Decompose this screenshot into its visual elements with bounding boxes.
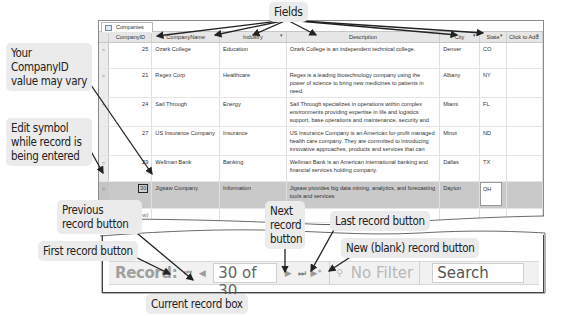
cell-industry[interactable]: Healthcare: [220, 68, 287, 97]
cell-companyid[interactable]: 21: [109, 68, 152, 97]
callout-edit-symbol: Edit symbol while record is being entere…: [6, 118, 92, 166]
callout-next-record: Next record button: [265, 201, 305, 249]
table-row[interactable]: ⌗ 24 Sail Through Energy Sail Through sp…: [99, 97, 543, 126]
callout-previous-record: Previous record button: [57, 200, 142, 234]
record-label: Record:: [115, 264, 177, 282]
datasheet-grid: CompanyID CompanyName Industry▾ Descript…: [99, 32, 543, 223]
cell-description[interactable]: US Insurance Company is an American for-…: [286, 126, 440, 155]
cell-city[interactable]: Dallas: [440, 155, 480, 181]
column-header-industry[interactable]: Industry▾: [220, 32, 287, 42]
cell-click-to-add[interactable]: [506, 208, 542, 222]
chevron-down-icon[interactable]: ▾: [473, 32, 476, 38]
cell-state[interactable]: NY: [479, 68, 506, 97]
divider: [419, 262, 420, 284]
object-tabstrip: Companies: [99, 21, 543, 32]
column-header-companyname[interactable]: CompanyName: [152, 32, 220, 42]
column-header-click-to-add[interactable]: Click to Add▾: [506, 32, 542, 42]
search-input[interactable]: Search: [432, 263, 524, 283]
cell-industry[interactable]: Energy: [220, 97, 287, 126]
cell-description[interactable]: Wellman Bank is an American internationa…: [286, 155, 440, 181]
cell-description[interactable]: Sail Through specializes in operations w…: [286, 97, 440, 126]
chevron-down-icon[interactable]: ▾: [536, 32, 539, 38]
cell-state[interactable]: OH: [479, 181, 506, 208]
cell-click-to-add[interactable]: [506, 97, 542, 126]
state-input[interactable]: OH: [480, 182, 502, 206]
cell-city[interactable]: Albany: [440, 68, 480, 97]
callout-last-record: Last record button: [330, 211, 430, 231]
table-row[interactable]: ⌗ 29 Wellman Bank Banking Wellman Bank i…: [99, 155, 543, 181]
callout-new-record: New (blank) record button: [341, 238, 479, 258]
table-icon: [105, 25, 112, 31]
cell-state[interactable]: ND: [479, 126, 506, 155]
previous-record-button[interactable]: ◀: [195, 268, 209, 278]
cell-industry[interactable]: Insurance: [220, 126, 287, 155]
cell-click-to-add[interactable]: [506, 68, 542, 97]
table-row[interactable]: 27 US Insurance Company Insurance US Ins…: [99, 126, 543, 155]
record-selector[interactable]: ⌗: [99, 155, 109, 181]
cell-companyname[interactable]: Ozark College: [152, 42, 220, 68]
new-record-button[interactable]: ▶*: [309, 268, 323, 278]
cell-city[interactable]: Minot: [440, 126, 480, 155]
cell-companyid[interactable]: 29: [109, 155, 152, 181]
cell-companyname[interactable]: Wellman Bank: [152, 155, 220, 181]
cell-state[interactable]: CO: [479, 42, 506, 68]
cell-companyid[interactable]: 25: [109, 42, 152, 68]
cell-click-to-add[interactable]: [506, 42, 542, 68]
cell-state[interactable]: TX: [479, 155, 506, 181]
no-filter-label: No Filter: [351, 264, 413, 282]
tab-label: Companies: [116, 24, 144, 30]
datasheet-window: Companies CompanyID CompanyName Industry…: [98, 20, 544, 225]
cell-city[interactable]: Dayton: [440, 181, 480, 208]
table-row[interactable]: ⌗ 25 Ozark College Education Ozark Colle…: [99, 42, 543, 68]
cell-companyname[interactable]: US Insurance Company: [152, 126, 220, 155]
cell-companyid[interactable]: 24: [109, 97, 152, 126]
record-navigation-bar: Record: ⏮ ◀ 30 of 30 ▶ ⏭ ▶* ⚲ No Filter …: [109, 261, 539, 285]
editing-row[interactable]: ✎ ⌗ 30 Jigsaw Company Information Jigsaw…: [99, 181, 543, 208]
record-selector[interactable]: ⌗: [99, 97, 109, 126]
column-header-description[interactable]: Description: [286, 32, 440, 42]
column-header-city[interactable]: City▾: [440, 32, 480, 42]
cell-industry[interactable]: Education: [220, 42, 287, 68]
select-all-corner[interactable]: [99, 32, 109, 42]
cell-click-to-add[interactable]: [506, 126, 542, 155]
divider: [329, 262, 330, 284]
cell-city[interactable]: [440, 208, 480, 222]
table-row[interactable]: ⌗ 21 Regex Corp Healthcare Regex is a le…: [99, 68, 543, 97]
cell-companyname[interactable]: Regex Corp: [152, 68, 220, 97]
chevron-down-icon[interactable]: ▾: [500, 32, 503, 38]
cell-state[interactable]: [479, 208, 506, 222]
companyid-value: 30: [138, 184, 148, 193]
cell-companyname[interactable]: Jigsaw Company: [152, 181, 220, 208]
last-record-button[interactable]: ⏭: [295, 268, 309, 279]
no-filter-button[interactable]: ⚲ No Filter: [336, 264, 413, 282]
cell-companyid[interactable]: 27: [109, 126, 152, 155]
column-header-companyid[interactable]: CompanyID: [109, 32, 152, 42]
first-record-button[interactable]: ⏮: [181, 268, 195, 279]
filter-icon: ⚲: [336, 268, 343, 278]
callout-fields: Fields: [269, 2, 308, 22]
selector-mark: ⌗: [102, 186, 105, 192]
cell-city[interactable]: Denver: [440, 42, 480, 68]
cell-companyname[interactable]: [152, 208, 220, 222]
cell-description[interactable]: Ozark College is an independent technica…: [286, 42, 440, 68]
cell-description[interactable]: Jigsaw provides big data mining, analyti…: [286, 181, 440, 208]
callout-company-id: Your CompanyID value may vary: [6, 43, 92, 91]
record-selector[interactable]: ⌗: [99, 42, 109, 68]
callout-current-record: Current record box: [146, 294, 248, 314]
header-row: CompanyID CompanyName Industry▾ Descript…: [99, 32, 543, 42]
cell-click-to-add[interactable]: [506, 181, 542, 208]
cell-industry[interactable]: Banking: [220, 155, 287, 181]
cell-state[interactable]: FL: [479, 97, 506, 126]
new-record-row[interactable]: (New): [99, 208, 543, 222]
column-header-state[interactable]: State▾: [479, 32, 506, 42]
cell-click-to-add[interactable]: [506, 155, 542, 181]
chevron-down-icon[interactable]: ▾: [280, 32, 283, 38]
record-selector[interactable]: [99, 126, 109, 155]
current-record-box[interactable]: 30 of 30: [213, 263, 277, 283]
record-selector[interactable]: ⌗: [99, 68, 109, 97]
cell-companyname[interactable]: Sail Through: [152, 97, 220, 126]
callout-first-record: First record button: [38, 241, 138, 261]
next-record-button[interactable]: ▶: [281, 268, 295, 278]
cell-description[interactable]: Regex is a leading biotechnology company…: [286, 68, 440, 97]
cell-city[interactable]: Miami: [440, 97, 480, 126]
